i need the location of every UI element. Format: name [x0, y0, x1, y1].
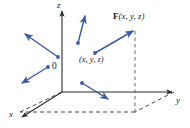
vector-upper-left — [25, 34, 60, 59]
axis-x — [22, 92, 62, 117]
vector-plane-center — [80, 81, 108, 99]
axis-label-y: y — [176, 96, 180, 105]
xy-plane-outline — [20, 92, 174, 112]
point-coordinates-label: (x, y, z) — [79, 55, 104, 64]
axis-label-x: x — [9, 110, 13, 119]
vector-field-diagram: z y x 0 (x, y, z) F(x, y, z) — [0, 0, 190, 128]
vector-field-label: F(x, y, z) — [113, 12, 145, 21]
origin-label: 0 — [52, 62, 57, 72]
diagram-canvas — [0, 0, 190, 128]
vector-field-F — [93, 31, 133, 55]
axis-label-z: z — [57, 1, 61, 10]
vector-lower-left — [22, 65, 50, 83]
vector-upper-middle — [76, 16, 85, 45]
vector-field-arguments: (x, y, z) — [119, 11, 145, 21]
